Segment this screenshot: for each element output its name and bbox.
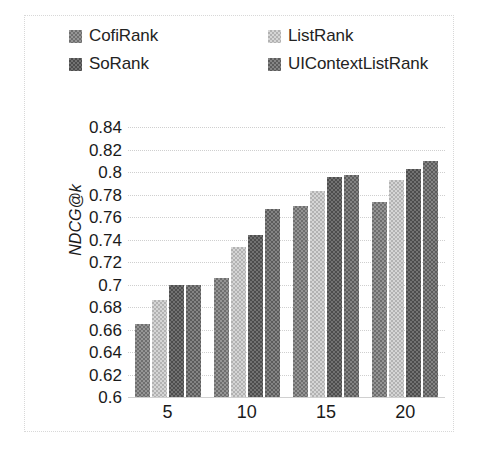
bar: [265, 209, 280, 397]
bar: [310, 191, 325, 397]
y-axis-tick-label: 0.68: [70, 299, 122, 316]
legend-label-cofirank: CofiRank: [89, 26, 158, 46]
legend-label-listrank: ListRank: [288, 26, 353, 46]
bar: [135, 324, 150, 397]
bar-groups: [128, 127, 445, 397]
y-axis-tick-label: 0.8: [70, 164, 122, 181]
bar-group: [207, 127, 286, 397]
bar: [406, 169, 421, 397]
y-axis-tick-label: 0.84: [70, 119, 122, 136]
bar: [248, 235, 263, 397]
y-axis-tick-label: 0.76: [70, 209, 122, 226]
legend-item-sorank: SoRank: [69, 54, 149, 74]
bar: [152, 300, 167, 397]
legend-row-1: CofiRank ListRank: [25, 26, 453, 52]
y-axis-tick-labels: 0.840.820.80.780.760.740.720.70.680.660.…: [68, 127, 122, 397]
y-axis-tick-label: 0.74: [70, 231, 122, 248]
x-axis-tick-label: 20: [375, 402, 435, 423]
bar-group: [287, 127, 366, 397]
bar: [186, 285, 201, 398]
y-axis-tick-label: 0.64: [70, 344, 122, 361]
chart-legend: CofiRank ListRank SoRank UIContextListRa…: [25, 24, 453, 86]
bar: [293, 206, 308, 397]
x-axis-tick-labels: 5101520: [128, 402, 445, 432]
legend-item-listrank: ListRank: [268, 26, 353, 46]
legend-swatch-listrank: [268, 30, 281, 43]
legend-swatch-uicontextlistrank: [268, 58, 281, 71]
legend-item-cofirank: CofiRank: [69, 26, 158, 46]
plot-area: [128, 127, 445, 397]
bar: [214, 278, 229, 397]
y-axis-tick-label: 0.6: [70, 389, 122, 406]
bar-group: [366, 127, 445, 397]
legend-item-uicontextlistrank: UIContextListRank: [268, 54, 428, 74]
bar-group: [128, 127, 207, 397]
legend-label-uicontextlistrank: UIContextListRank: [288, 54, 428, 74]
bar: [389, 180, 404, 397]
bar: [423, 161, 438, 397]
chart-container: CofiRank ListRank SoRank UIContextListRa…: [24, 15, 454, 432]
x-axis-tick-label: 5: [138, 402, 198, 423]
bar: [169, 285, 184, 398]
x-axis-tick-label: 10: [217, 402, 277, 423]
legend-swatch-cofirank: [69, 30, 82, 43]
x-axis-line: [128, 397, 445, 398]
y-axis-tick-label: 0.78: [70, 186, 122, 203]
y-axis-tick-label: 0.66: [70, 321, 122, 338]
y-axis-tick-label: 0.7: [70, 276, 122, 293]
legend-label-sorank: SoRank: [89, 54, 149, 74]
bar: [231, 247, 246, 397]
x-axis-tick-label: 15: [296, 402, 356, 423]
bar: [327, 177, 342, 398]
bar: [344, 175, 359, 397]
legend-row-2: SoRank UIContextListRank: [25, 54, 453, 80]
legend-swatch-sorank: [69, 58, 82, 71]
y-axis-tick-label: 0.82: [70, 141, 122, 158]
y-axis-tick-label: 0.72: [70, 254, 122, 271]
y-axis-tick-label: 0.62: [70, 366, 122, 383]
bar: [372, 202, 387, 397]
